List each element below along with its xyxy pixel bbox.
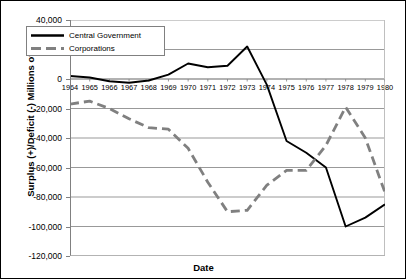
legend-label-central-government: Central Government: [69, 31, 141, 40]
y-axis-tick-mark: [66, 256, 70, 257]
y-axis-tick-label: 40,000: [0, 15, 62, 25]
x-axis-title: Date: [0, 262, 407, 273]
chart-container: Surplus (+)/Deficit (-) Millions of Yen …: [0, 0, 407, 280]
legend-item-central-government: Central Government: [31, 29, 141, 42]
y-axis-tick-label: -60,000: [0, 163, 62, 173]
y-axis-tick-label: -40,000: [0, 133, 62, 143]
legend-swatch-dashed-line: [31, 43, 64, 54]
legend-swatch-solid-line: [31, 30, 64, 41]
legend-label-corporations: Corporations: [69, 44, 115, 53]
y-axis-tick-label: -20,000: [0, 104, 62, 114]
legend-item-corporations: Corporations: [31, 42, 115, 55]
y-axis-tick-label: -100,000: [0, 222, 62, 232]
y-axis-tick-label: 0: [0, 74, 62, 84]
y-axis-tick-label: -80,000: [0, 192, 62, 202]
chart-legend: Central Government Corporations: [26, 26, 165, 56]
y-axis-tick-label: -120,000: [0, 251, 62, 261]
